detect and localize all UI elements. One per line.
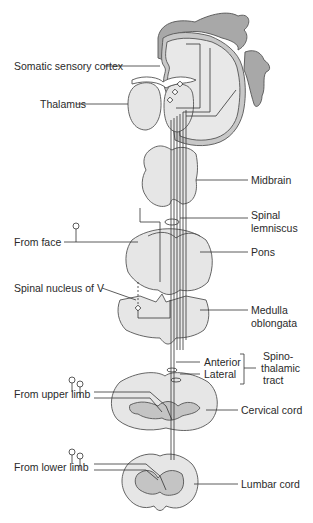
label-spinal-lemniscus-1: Spinal (251, 209, 280, 221)
label-from-upper-limb: From upper limb (14, 388, 90, 400)
label-spino-2: thalamic (261, 362, 300, 374)
label-thalamus: Thalamus (40, 98, 86, 110)
label-cervical-cord: Cervical cord (241, 404, 302, 416)
label-spinal-nucleus-v: Spinal nucleus of V (14, 282, 104, 294)
label-medulla-1: Medulla (251, 304, 288, 316)
label-spinal-lemniscus-2: lemniscus (251, 222, 298, 234)
medulla (118, 294, 209, 344)
label-anterior: Anterior (204, 356, 241, 368)
label-spino-1: Spino- (263, 350, 293, 362)
label-medulla-2: oblongata (251, 317, 297, 329)
label-somatic-sensory-cortex: Somatic sensory cortex (14, 60, 123, 72)
pons (126, 229, 212, 295)
label-lumbar-cord: Lumbar cord (241, 478, 300, 490)
midbrain (142, 146, 197, 206)
label-pons: Pons (251, 246, 275, 258)
temporal-lobe (244, 51, 270, 107)
spinothalamic-diagram (0, 0, 313, 523)
thalamus-left (128, 83, 161, 130)
label-midbrain: Midbrain (251, 174, 291, 186)
label-lateral: Lateral (204, 368, 236, 380)
label-from-lower-limb: From lower limb (14, 461, 89, 473)
label-spino-3: tract (263, 374, 283, 386)
label-from-face: From face (14, 236, 61, 248)
